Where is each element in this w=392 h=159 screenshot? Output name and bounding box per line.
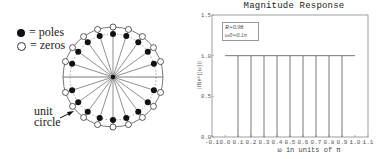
origin-marker [111, 75, 115, 79]
zero-circle-icon [17, 42, 26, 51]
magnitude-response-chart: Magnitude Response -0.10.00.10.20.30.40.… [196, 0, 392, 159]
x-axis-label: ω in units of π [196, 146, 392, 154]
pole-marker [85, 39, 91, 45]
pole-dot-icon [17, 29, 25, 37]
pole-marker [123, 115, 129, 121]
x-tick-label: 0.0 [220, 139, 231, 146]
y-axis-label: |H(e^{jω})| [196, 60, 202, 90]
x-tick-label: 0.2 [246, 139, 257, 146]
pole-marker [85, 109, 91, 115]
legend-zeros: = zeros [17, 38, 65, 53]
chart-legend-box: R=0.98 ω0=0.1π [222, 22, 259, 41]
zero-marker [110, 124, 116, 130]
pole-marker [145, 99, 151, 105]
x-tick-label: 0.4 [272, 139, 283, 146]
zero-marker [110, 24, 116, 30]
pole-marker [97, 33, 103, 39]
zero-marker [62, 89, 68, 95]
pole-zero-diagram: = poles = zeros unit circle [0, 0, 196, 159]
zero-marker [158, 59, 164, 65]
pole-marker [69, 61, 75, 67]
x-tick-label: 1.0 [350, 139, 361, 146]
zero-marker [125, 122, 131, 128]
legend-r-value: R=0.98 [225, 23, 258, 31]
x-tick-label: 0.3 [259, 139, 270, 146]
pole-marker [151, 61, 157, 67]
x-tick-label: 0.6 [298, 139, 309, 146]
zero-marker [70, 103, 76, 109]
x-tick-label: 0.8 [324, 139, 335, 146]
zero-marker [150, 45, 156, 51]
unit-circle-label-2: circle [34, 115, 61, 130]
zero-marker [95, 26, 101, 32]
pole-marker [110, 117, 116, 123]
arrow-head-icon [67, 111, 74, 116]
y-tick-label: 1.0 [201, 53, 211, 60]
legend-zeros-label: = zeros [30, 38, 65, 52]
legend-omega-value: ω0=0.1π [225, 31, 258, 39]
legend-poles-label: = poles [29, 25, 64, 39]
pole-marker [135, 39, 141, 45]
x-tick-label: 0.1 [233, 139, 244, 146]
pole-marker [151, 87, 157, 93]
pole-marker [75, 99, 81, 105]
pole-marker [135, 109, 141, 115]
zero-marker [139, 114, 145, 120]
pole-marker [69, 87, 75, 93]
y-tick-label: 0.0 [201, 134, 211, 141]
zero-marker [139, 34, 145, 40]
zero-marker [158, 89, 164, 95]
zero-marker [70, 45, 76, 51]
pole-marker [75, 49, 81, 55]
zero-marker [125, 26, 131, 32]
zero-marker [150, 103, 156, 109]
x-tick-label: 0.9 [337, 139, 348, 146]
zero-marker [81, 114, 87, 120]
zero-marker [62, 59, 68, 65]
pole-marker [145, 49, 151, 55]
pole-marker [123, 33, 129, 39]
y-tick-label: 0.5 [201, 93, 211, 100]
pole-marker [110, 31, 116, 37]
x-tick-label: 0.7 [311, 139, 322, 146]
x-tick-label: 1.1 [363, 139, 374, 146]
x-tick-label: 0.5 [285, 139, 296, 146]
zero-marker [81, 34, 87, 40]
pole-zero-plot [0, 0, 196, 159]
y-tick-label: 1.5 [201, 12, 211, 19]
pole-marker [97, 115, 103, 121]
zero-marker [95, 122, 101, 128]
